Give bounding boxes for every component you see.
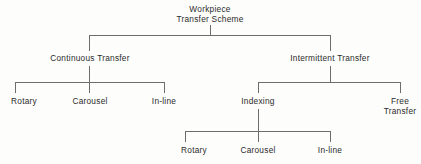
- node-indexing-carousel: Carousel: [240, 145, 275, 155]
- node-indexing-rotary-label: Rotary: [181, 145, 207, 155]
- node-continuous-inline: In-line: [152, 96, 176, 106]
- node-indexing-inline-label: In-line: [318, 145, 342, 155]
- node-indexing-label: Indexing: [241, 96, 274, 106]
- connector-level3-right-bus: [258, 82, 401, 83]
- connector-indexing-stem: [258, 109, 259, 131]
- node-continuous-transfer: Continuous Transfer: [50, 53, 129, 63]
- node-continuous-inline-label: In-line: [152, 96, 176, 106]
- connector-to-cont-rotary: [15, 82, 16, 93]
- workpiece-transfer-scheme-diagram: Workpiece Transfer Scheme Continuous Tra…: [0, 0, 421, 164]
- connector-to-cont-inline: [164, 82, 165, 93]
- node-continuous-transfer-label: Continuous Transfer: [50, 53, 129, 63]
- node-root-line1: Workpiece: [176, 4, 243, 14]
- connector-continuous-stem: [89, 66, 90, 82]
- connector-level2-bus: [89, 35, 331, 36]
- connector-to-continuous: [89, 35, 90, 51]
- node-continuous-carousel-label: Carousel: [72, 96, 107, 106]
- node-indexing-inline: In-line: [318, 145, 342, 155]
- node-indexing: Indexing: [241, 96, 274, 106]
- node-indexing-carousel-label: Carousel: [240, 145, 275, 155]
- node-root-line2: Transfer Scheme: [176, 14, 243, 24]
- node-continuous-carousel: Carousel: [72, 96, 107, 106]
- node-continuous-rotary: Rotary: [11, 96, 37, 106]
- node-indexing-rotary: Rotary: [181, 145, 207, 155]
- connector-to-idx-rotary: [185, 131, 186, 142]
- node-intermittent-transfer-label: Intermittent Transfer: [290, 53, 370, 63]
- node-free-transfer: Free Transfer: [384, 96, 417, 116]
- node-free-transfer-line2: Transfer: [384, 106, 417, 116]
- node-root: Workpiece Transfer Scheme: [176, 4, 243, 24]
- connector-root-stem: [210, 25, 211, 35]
- connector-level3-left-bus: [15, 82, 165, 83]
- connector-intermittent-stem: [330, 66, 331, 82]
- connector-to-idx-inline: [330, 131, 331, 142]
- connector-to-free-transfer: [400, 82, 401, 93]
- node-free-transfer-line1: Free: [384, 96, 417, 106]
- node-intermittent-transfer: Intermittent Transfer: [290, 53, 370, 63]
- connector-to-cont-carousel: [89, 82, 90, 93]
- node-continuous-rotary-label: Rotary: [11, 96, 37, 106]
- connector-to-idx-carousel: [258, 131, 259, 142]
- connector-to-intermittent: [330, 35, 331, 51]
- connector-to-indexing: [258, 82, 259, 93]
